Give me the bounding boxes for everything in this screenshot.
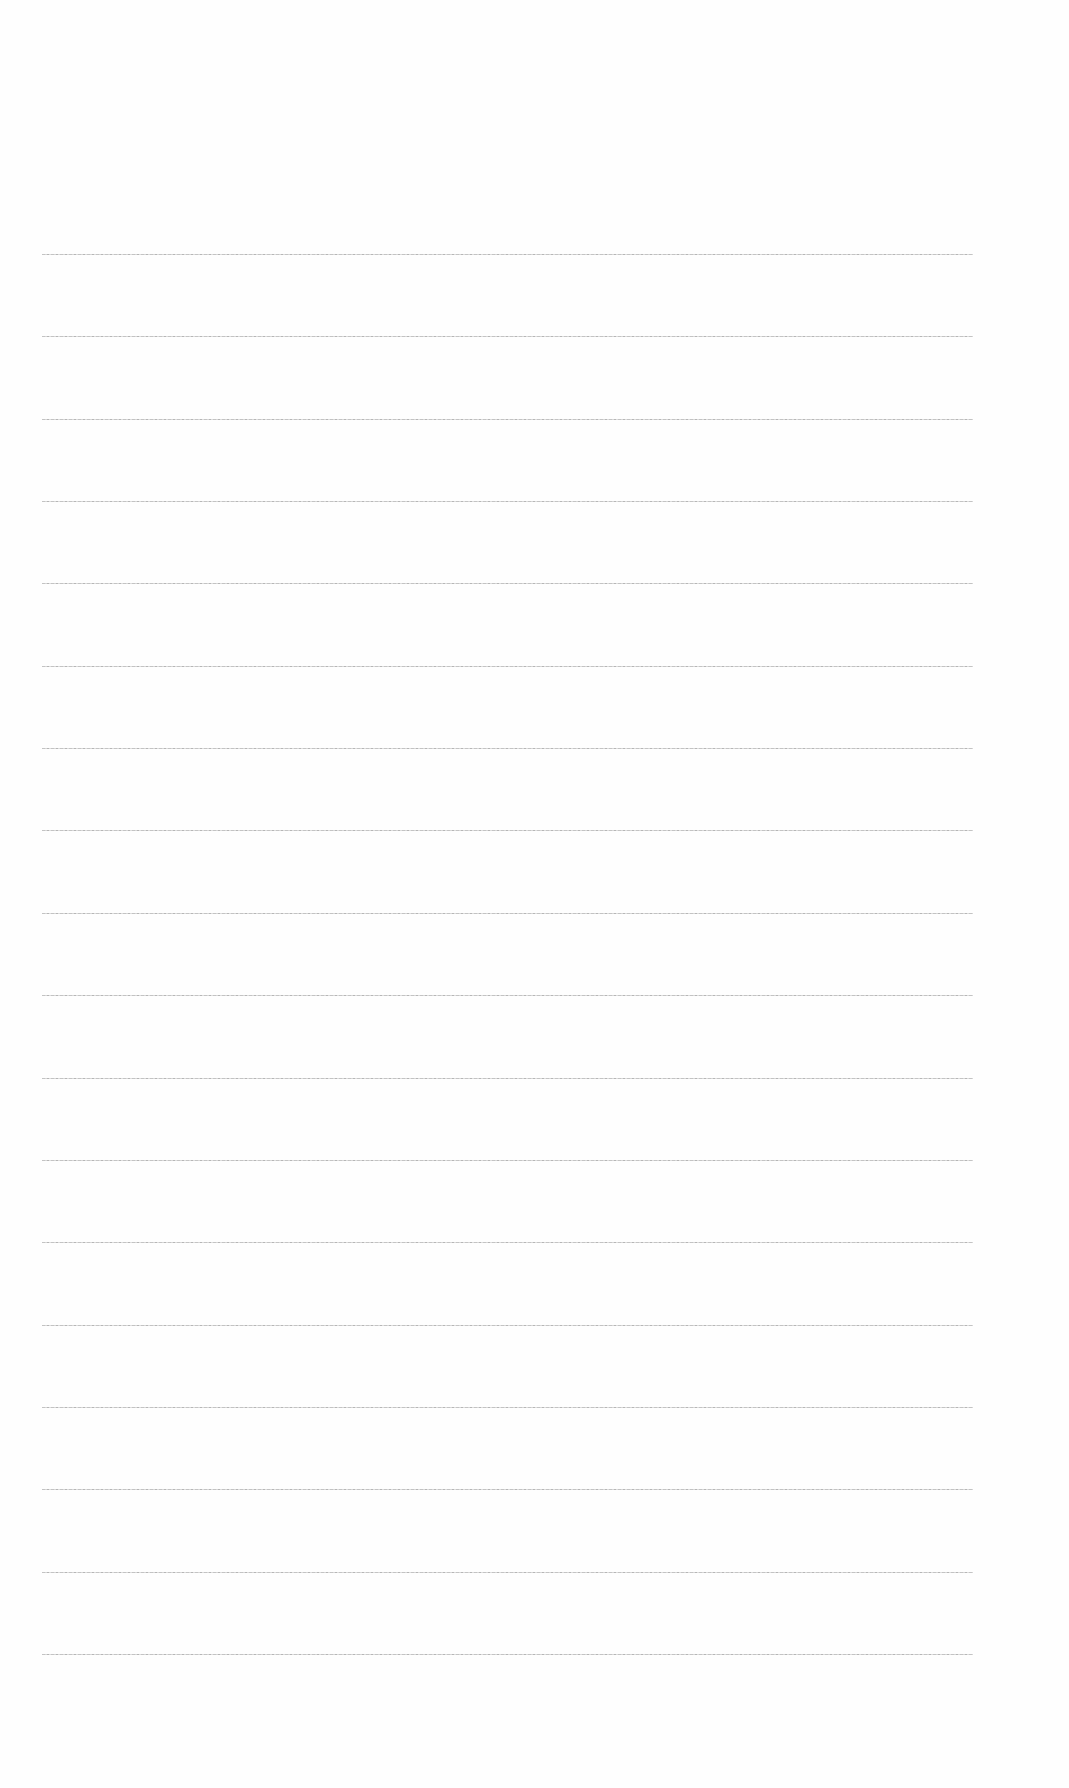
ruled-paper-page [0, 0, 1069, 1788]
ruled-line [42, 1078, 973, 1079]
ruled-line [42, 748, 973, 749]
ruled-line [42, 501, 973, 502]
ruled-line [42, 666, 973, 667]
ruled-line [42, 419, 973, 420]
ruled-line [42, 1325, 973, 1326]
ruled-line [42, 830, 973, 831]
ruled-line [42, 913, 973, 914]
ruled-line [42, 1572, 973, 1573]
ruled-line [42, 583, 973, 584]
ruled-line [42, 254, 973, 255]
ruled-line [42, 1160, 973, 1161]
ruled-line [42, 336, 973, 337]
ruled-line [42, 995, 973, 996]
ruled-lines [0, 0, 1069, 1788]
ruled-line [42, 1654, 973, 1655]
ruled-line [42, 1489, 973, 1490]
ruled-line [42, 1407, 973, 1408]
ruled-line [42, 1242, 973, 1243]
